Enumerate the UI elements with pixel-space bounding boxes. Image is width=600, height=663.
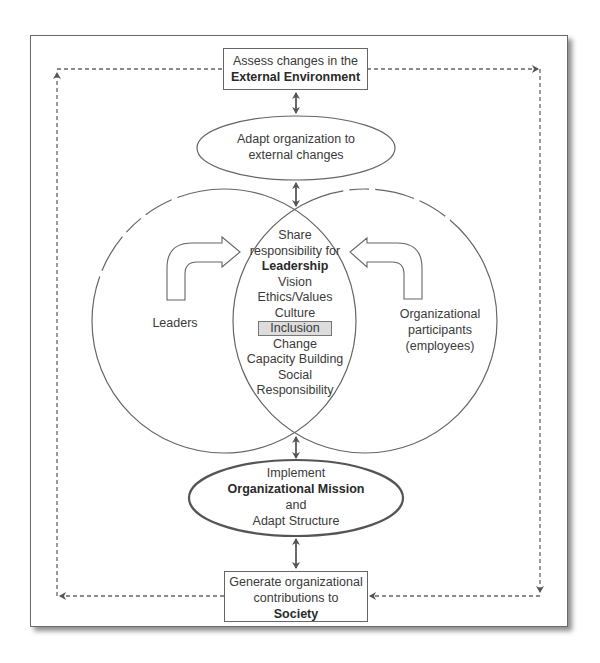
employees-line1: Organizational [390, 306, 490, 322]
employees-line2: participants [390, 322, 490, 338]
item-vision: Vision [235, 275, 355, 291]
leaders-arrow-shape [167, 237, 240, 300]
employees-label: Organizational participants (employees) [390, 306, 490, 354]
external-environment-line1: Assess changes in the [224, 53, 367, 69]
society-line1: Generate organizational [225, 574, 367, 590]
mission-line1: Implement [200, 465, 392, 481]
adapt-line1: Adapt organization to [200, 131, 392, 147]
item-ethics-values: Ethics/Values [235, 290, 355, 306]
leaders-label: Leaders [140, 315, 210, 331]
shared-leadership-list: Share responsibility for Leadership Visi… [235, 228, 355, 399]
mission-line4: Adapt Structure [200, 513, 392, 529]
item-social: Social [235, 368, 355, 384]
adapt-ellipse: Adapt organization to external changes [200, 131, 392, 163]
leadership-heading: Leadership [262, 259, 329, 273]
center-line2: responsibility for [235, 244, 355, 260]
external-environment-box: Assess changes in the External Environme… [223, 48, 368, 90]
external-environment-title: External Environment [231, 70, 360, 84]
employees-line3: (employees) [390, 338, 490, 354]
mission-ellipse: Implement Organizational Mission and Ada… [200, 465, 392, 529]
center-line1: Share [235, 228, 355, 244]
item-inclusion-highlighted: Inclusion [258, 321, 332, 336]
item-capacity-building: Capacity Building [235, 352, 355, 368]
mission-title: Organizational Mission [228, 482, 365, 496]
item-responsibility: Responsibility [235, 383, 355, 399]
society-box: Generate organizational contributions to… [224, 571, 368, 622]
society-title: Society [274, 607, 318, 621]
item-culture: Culture [235, 306, 355, 322]
society-line2: contributions to [225, 590, 367, 606]
item-change: Change [235, 337, 355, 353]
mission-line3: and [200, 497, 392, 513]
employees-arrow-shape [350, 238, 422, 299]
adapt-line2: external changes [200, 147, 392, 163]
